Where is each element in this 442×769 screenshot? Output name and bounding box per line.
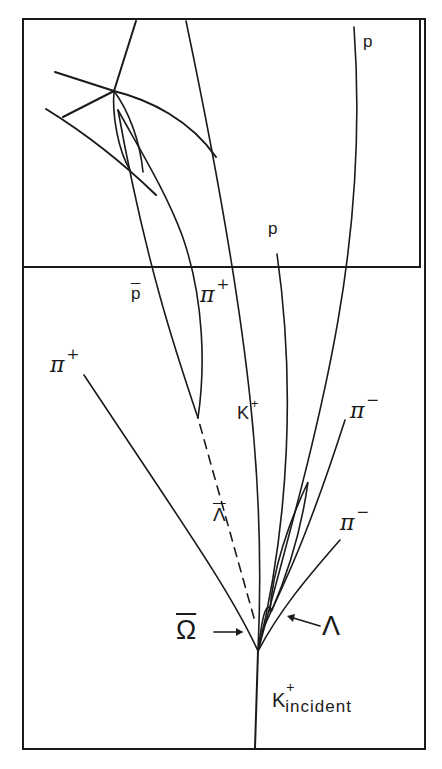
star-track-4 (63, 91, 114, 117)
pi-symbol: π (50, 352, 64, 377)
diagram-frame (23, 19, 420, 267)
label-omega-bar: Ω (176, 617, 196, 644)
charge-sup: + (286, 680, 294, 694)
lambda-track (262, 420, 345, 632)
pi-symbol: π (200, 282, 214, 307)
lambda-bar-dashed-track (198, 418, 254, 618)
star-track-2 (55, 72, 114, 91)
label-pi-plus-upper: π+ (200, 282, 229, 306)
pi-symbol: π (350, 398, 364, 423)
label-k-incident: K + incident (272, 690, 352, 710)
label-p-top: p (363, 33, 372, 50)
k-incident-track (255, 651, 258, 748)
track-drawing (0, 0, 442, 769)
pbar-track (118, 110, 198, 418)
k-symbol: K (272, 689, 285, 711)
charge-sup: + (251, 397, 258, 411)
bubble-chamber-diagram: p p p π+ π+ K+ π− π− Λ Ω Λ K + incident (0, 0, 442, 769)
pi-symbol: π (340, 510, 354, 535)
label-lambda: Λ (322, 613, 340, 640)
label-p-mid: p (268, 220, 277, 237)
star-track-3 (114, 91, 216, 157)
charge-sup: + (66, 345, 79, 363)
lambda-arrow (290, 617, 320, 626)
k-plus-track (186, 21, 260, 651)
star-track-1 (114, 21, 136, 91)
label-lambda-bar: Λ (213, 505, 226, 524)
charge-sup: + (216, 275, 229, 293)
incident-subscript: incident (285, 697, 352, 716)
label-pi-plus-left: π+ (50, 352, 79, 376)
charge-sup: − (356, 503, 369, 521)
charge-sup: − (366, 391, 379, 409)
label-k-plus: K+ (237, 402, 258, 422)
label-pi-minus-lower: π− (340, 510, 369, 534)
pi-plus-left-track (84, 375, 258, 651)
k-symbol: K (237, 403, 249, 423)
label-pbar: p (131, 285, 140, 302)
pi-plus-upper-track (118, 110, 202, 418)
proton-top-track (258, 27, 357, 651)
label-pi-minus-upper: π− (350, 398, 379, 422)
